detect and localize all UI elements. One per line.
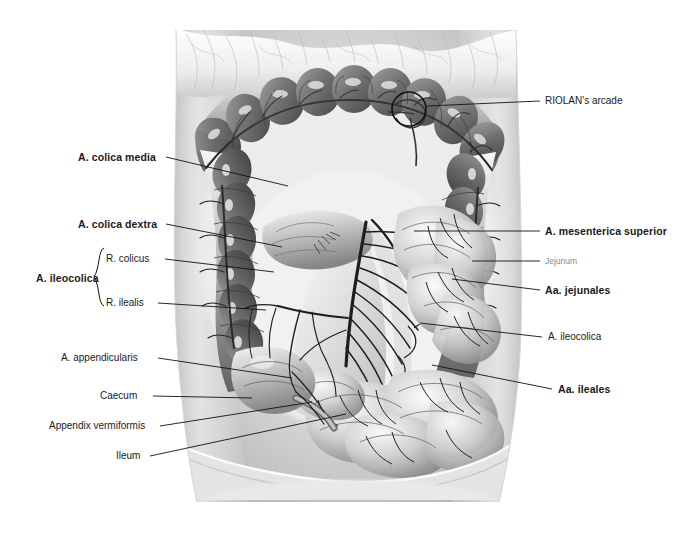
label-riolans-arcade: RIOLAN's arcade xyxy=(545,96,623,106)
label-a-ileocolica-right: A. ileocolica xyxy=(548,332,601,342)
label-a-mesenterica-superior: A. mesenterica superior xyxy=(545,226,667,237)
label-appendix-vermiformis: Appendix vermiformis xyxy=(49,421,145,431)
label-r-ilealis: R. ilealis xyxy=(106,298,144,308)
anatomical-illustration xyxy=(0,0,682,534)
label-r-colicus: R. colicus xyxy=(106,254,149,264)
label-a-colica-dextra: A. colica dextra xyxy=(78,219,157,230)
label-ileum: Ileum xyxy=(116,451,140,461)
label-caecum: Caecum xyxy=(100,391,137,401)
label-jejunum: Jejunum xyxy=(545,257,577,266)
label-a-colica-media: A. colica media xyxy=(78,152,156,163)
abdominal-cavity xyxy=(174,28,521,532)
label-aa-jejunales: Aa. jejunales xyxy=(545,285,611,296)
label-a-appendicularis: A. appendicularis xyxy=(61,353,138,363)
label-aa-ileales: Aa. ileales xyxy=(558,384,610,395)
label-a-ileocolica: A. ileocolica xyxy=(36,273,99,284)
